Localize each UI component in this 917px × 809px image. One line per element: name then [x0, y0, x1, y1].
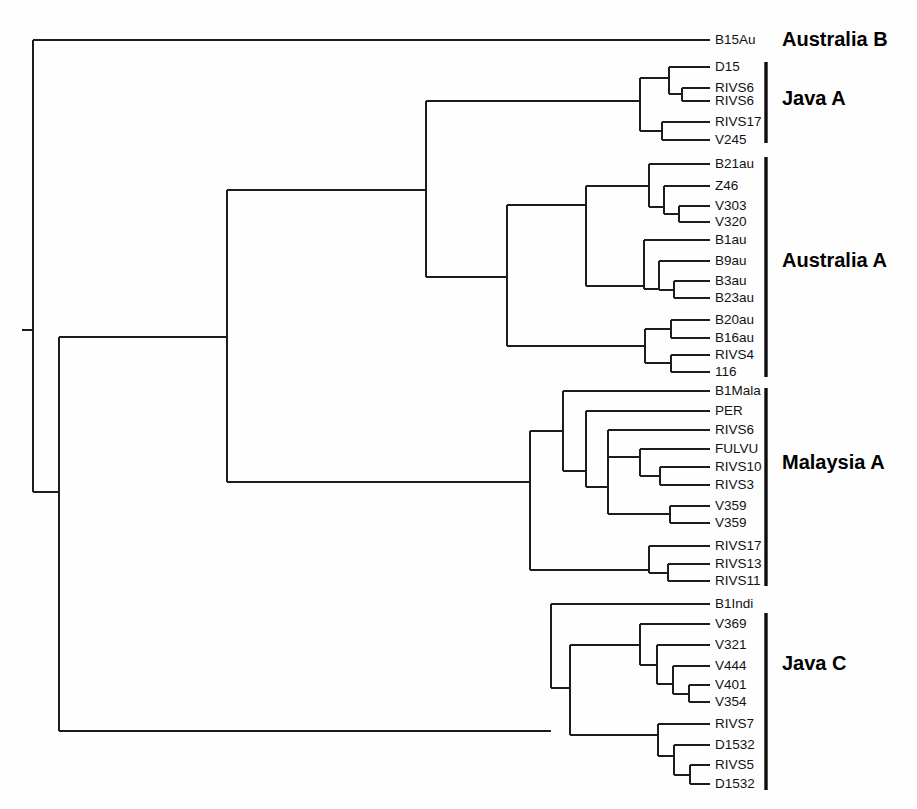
leaf-label-v359: V359 [715, 515, 747, 530]
leaf-label-v354: V354 [715, 694, 747, 709]
branch-lines-group [22, 40, 710, 784]
leaf-label-v303: V303 [715, 198, 747, 213]
leaf-label-rivs13: RIVS13 [715, 556, 762, 571]
leaf-label-v245: V245 [715, 132, 747, 147]
leaf-label-b23au: B23au [715, 290, 754, 305]
leaf-label-fulvu: FULVU [715, 441, 758, 456]
leaf-label-z46: Z46 [715, 178, 738, 193]
leaf-label-rivs5: RIVS5 [715, 757, 754, 772]
leaf-label-rivs10: RIVS10 [715, 459, 762, 474]
leaf-label-b20au: B20au [715, 312, 754, 327]
phylogenetic-tree-figure: B15AuD15RIVS6RIVS6RIVS17V245B21auZ46V303… [0, 0, 917, 809]
leaf-label-b1mala: B1Mala [715, 383, 761, 398]
leaf-label-v321: V321 [715, 637, 747, 652]
leaf-label-rivs6: RIVS6 [715, 422, 754, 437]
leaf-label-v369: V369 [715, 616, 747, 631]
group-label-malaysia-a: Malaysia A [782, 451, 885, 473]
leaf-label-v320: V320 [715, 214, 747, 229]
leaf-label-rivs7: RIVS7 [715, 716, 754, 731]
leaf-label-rivs17: RIVS17 [715, 114, 762, 129]
leaf-label-rivs4: RIVS4 [715, 347, 755, 362]
leaf-label-per: PER [715, 403, 743, 418]
leaf-label-b9au: B9au [715, 253, 747, 268]
leaf-label-b21au: B21au [715, 156, 754, 171]
group-label-java-a: Java A [782, 87, 846, 109]
group-label-australia-a: Australia A [782, 249, 887, 271]
leaf-label-rivs17: RIVS17 [715, 538, 762, 553]
group-label-australia-b: Australia B [782, 28, 888, 50]
leaf-label-b3au: B3au [715, 273, 747, 288]
leaf-label-d15: D15 [715, 59, 740, 74]
leaf-label-rivs6: RIVS6 [715, 93, 754, 108]
leaf-label-b16au: B16au [715, 330, 754, 345]
leaf-label-b1indi: B1Indi [715, 596, 753, 611]
dendrogram-canvas: B15AuD15RIVS6RIVS6RIVS17V245B21auZ46V303… [0, 0, 917, 809]
group-label-java-c: Java C [782, 652, 847, 674]
leaf-label-d1532: D1532 [715, 737, 755, 752]
leaf-label-v359: V359 [715, 498, 747, 513]
leaf-label-116: 116 [715, 364, 737, 379]
leaf-label-rivs11: RIVS11 [715, 573, 761, 588]
leaf-label-v444: V444 [715, 658, 747, 673]
leaf-label-d1532: D1532 [715, 776, 755, 791]
leaf-label-v401: V401 [715, 677, 747, 692]
leaf-labels-group: B15AuD15RIVS6RIVS6RIVS17V245B21auZ46V303… [715, 32, 762, 791]
leaf-label-rivs3: RIVS3 [715, 477, 754, 492]
leaf-label-b15au: B15Au [715, 32, 756, 47]
group-annotations-group: Australia BJava AAustralia AMalaysia AJa… [766, 28, 888, 790]
leaf-label-b1au: B1au [715, 232, 747, 247]
